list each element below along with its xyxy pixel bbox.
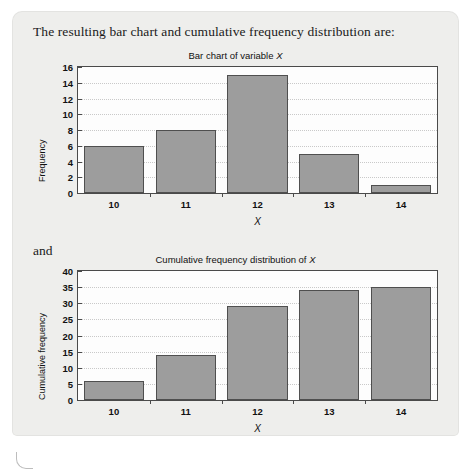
bar-slot (293, 67, 365, 193)
y-tick-label: 6 (68, 140, 73, 151)
bar (84, 146, 144, 193)
y-tick-label: 30 (62, 298, 73, 309)
plot-area: 4035302520151050 1011121314 (77, 270, 438, 401)
x-tick-label: 11 (181, 406, 191, 417)
y-tick-label: 25 (62, 314, 73, 325)
y-tick-label: 0 (68, 395, 73, 406)
bar-slot (150, 271, 222, 400)
bar-chart-cumulative: Cumulative frequency distribution of X C… (33, 254, 438, 440)
plot-area: 1614121086420 1011121314 (77, 66, 438, 194)
y-tick-label: 20 (62, 330, 73, 341)
bar (299, 290, 359, 400)
x-tick-mark (365, 400, 366, 404)
bar-slot (78, 271, 150, 400)
bar-chart-frequency: Bar chart of variable X Frequency 161412… (33, 50, 438, 232)
x-tick-mark (365, 193, 366, 197)
chart-title: Bar chart of variable X (33, 50, 438, 61)
y-tick-label: 4 (68, 156, 73, 167)
bar (227, 75, 287, 193)
bar (299, 154, 359, 193)
bar-slot (293, 271, 365, 400)
y-tick-label: 10 (62, 109, 73, 120)
y-tick-label: 0 (68, 188, 73, 199)
page-panel: The resulting bar chart and cumulative f… (13, 12, 458, 435)
chart-title: Cumulative frequency distribution of X (33, 254, 438, 265)
x-axis-label: X (77, 216, 438, 227)
y-tick-label: 10 (62, 362, 73, 373)
y-tick-label: 40 (62, 266, 73, 277)
bar-slot (365, 67, 437, 193)
x-tick-mark (222, 193, 223, 197)
y-tick-label: 2 (68, 172, 73, 183)
x-tick-mark (293, 193, 294, 197)
y-tick-label: 8 (68, 125, 73, 136)
x-tick-mark (150, 193, 151, 197)
x-tick-label: 10 (109, 199, 120, 210)
bar (371, 287, 431, 400)
bar-slot (222, 67, 294, 193)
x-tick-mark (293, 400, 294, 404)
x-tick-label: 12 (252, 406, 263, 417)
x-tick-label: 10 (109, 406, 120, 417)
bar-slot (222, 271, 294, 400)
y-tick-label: 35 (62, 282, 73, 293)
y-tick-label: 16 (62, 62, 73, 73)
x-tick-mark (222, 400, 223, 404)
y-axis-label: Frequency (37, 139, 47, 182)
bar-slot (365, 271, 437, 400)
y-tick-label: 14 (62, 77, 73, 88)
y-tick-label: 15 (62, 346, 73, 357)
page-corner-decoration (16, 452, 33, 469)
y-tick-mark (78, 193, 82, 194)
x-tick-label: 14 (396, 199, 407, 210)
y-tick-label: 5 (68, 378, 73, 389)
bar-slot (150, 67, 222, 193)
bars-container (78, 271, 437, 400)
bar (227, 306, 287, 400)
x-tick-label: 14 (396, 406, 407, 417)
y-axis-label: Cumulative frequency (37, 313, 47, 400)
bar (371, 185, 431, 193)
x-tick-label: 13 (324, 199, 335, 210)
x-tick-label: 11 (181, 199, 191, 210)
bar (156, 130, 216, 193)
x-tick-mark (150, 400, 151, 404)
y-tick-label: 12 (62, 93, 73, 104)
x-tick-label: 12 (252, 199, 263, 210)
y-tick-mark (78, 400, 82, 401)
intro-paragraph: The resulting bar chart and cumulative f… (33, 24, 395, 40)
x-axis-label: X (77, 423, 438, 434)
bar (84, 381, 144, 400)
bar-slot (78, 67, 150, 193)
bars-container (78, 67, 437, 193)
bar (156, 355, 216, 400)
x-tick-label: 13 (324, 406, 335, 417)
